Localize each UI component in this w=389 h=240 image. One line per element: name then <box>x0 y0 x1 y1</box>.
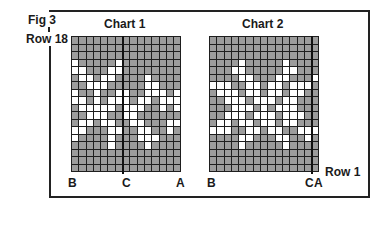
chart-cell <box>298 90 304 97</box>
chart-cell <box>87 127 93 134</box>
chart-cell <box>152 82 158 89</box>
chart-cell <box>72 127 78 134</box>
chart-cell <box>225 127 231 134</box>
chart-cell <box>298 67 304 74</box>
chart-cell <box>130 52 136 59</box>
chart-cell <box>160 52 166 59</box>
chart-cell <box>108 90 114 97</box>
chart-cell <box>101 135 107 142</box>
chart-cell <box>138 97 144 104</box>
chart-cell <box>108 105 114 112</box>
chart-cell <box>152 45 158 52</box>
chart-cell <box>79 75 85 82</box>
chart-cell <box>225 52 231 59</box>
chart-cell <box>138 165 144 172</box>
chart-cell <box>101 127 107 134</box>
chart-cell <box>276 75 282 82</box>
chart-cell <box>298 165 304 172</box>
chart-cell <box>283 105 289 112</box>
chart-cell <box>145 120 151 127</box>
chart-cell <box>108 165 114 172</box>
chart-cell <box>130 90 136 97</box>
chart-cell <box>101 157 107 164</box>
chart-cell <box>268 90 274 97</box>
chart-cell <box>160 165 166 172</box>
chart-cell <box>145 75 151 82</box>
chart-cell <box>283 157 289 164</box>
chart-cell <box>298 150 304 157</box>
chart-cell <box>145 37 151 44</box>
chart-cell <box>145 105 151 112</box>
chart-cell <box>160 150 166 157</box>
chart-cell <box>276 60 282 67</box>
chart-cell <box>217 157 223 164</box>
chart-cell <box>145 45 151 52</box>
chart-cell <box>283 150 289 157</box>
chart-cell <box>145 165 151 172</box>
chart-cell <box>72 60 78 67</box>
chart-cell <box>217 142 223 149</box>
chart-cell <box>138 112 144 119</box>
chart-cell <box>225 67 231 74</box>
chart-cell <box>268 97 274 104</box>
chart-cell <box>217 135 223 142</box>
chart-cell <box>239 142 245 149</box>
chart-cell <box>94 142 100 149</box>
chart-cell <box>174 67 180 74</box>
chart-cell <box>138 127 144 134</box>
chart-cell <box>276 127 282 134</box>
chart-cell <box>152 127 158 134</box>
chart-cell <box>152 157 158 164</box>
chart-cell <box>145 67 151 74</box>
chart-cell <box>145 82 151 89</box>
chart-cell <box>87 135 93 142</box>
chart-cell <box>79 135 85 142</box>
chart-cell <box>145 127 151 134</box>
chart-cell <box>108 150 114 157</box>
chart-cell <box>232 157 238 164</box>
chart-cell <box>290 120 296 127</box>
chart-cell <box>94 127 100 134</box>
chart-cell <box>174 37 180 44</box>
chart-cell <box>108 75 114 82</box>
chart-cell <box>298 75 304 82</box>
chart-cell <box>261 150 267 157</box>
chart-cell <box>276 135 282 142</box>
chart-cell <box>108 97 114 104</box>
chart-cell <box>174 97 180 104</box>
chart-cell <box>152 67 158 74</box>
chart-cell <box>174 150 180 157</box>
chart-cell <box>254 82 260 89</box>
chart-cell <box>268 60 274 67</box>
chart-cell <box>101 142 107 149</box>
chart-cell <box>145 112 151 119</box>
chart-cell <box>87 165 93 172</box>
chart-cell <box>254 105 260 112</box>
chart-cell <box>298 105 304 112</box>
chart-1-label-c: C <box>122 177 131 189</box>
chart-cell <box>290 45 296 52</box>
chart-cell <box>130 157 136 164</box>
chart-cell <box>290 157 296 164</box>
chart-cell <box>246 52 252 59</box>
chart-cell <box>283 67 289 74</box>
chart-cell <box>283 37 289 44</box>
chart-cell <box>94 97 100 104</box>
chart-cell <box>261 75 267 82</box>
chart-cell <box>268 45 274 52</box>
chart-cell <box>254 142 260 149</box>
chart-cell <box>283 97 289 104</box>
chart-cell <box>290 165 296 172</box>
chart-cell <box>145 90 151 97</box>
chart-cell <box>276 120 282 127</box>
chart-cell <box>138 45 144 52</box>
chart-2-label-c: C <box>305 177 314 189</box>
chart-cell <box>87 82 93 89</box>
chart-cell <box>283 165 289 172</box>
chart-cell <box>152 75 158 82</box>
chart-cell <box>79 105 85 112</box>
chart-cell <box>167 135 173 142</box>
chart-cell <box>130 75 136 82</box>
chart-cell <box>261 105 267 112</box>
chart-cell <box>232 75 238 82</box>
